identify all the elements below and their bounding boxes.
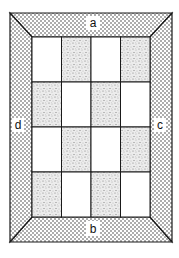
grid-cell-shaded [121,127,151,172]
grid-cell-white [32,37,62,82]
grid-cell-white [32,127,62,172]
grid-cell-white [121,172,151,217]
grid-cell-white [62,82,92,127]
grid-cell-shaded [32,172,62,217]
label-right: c [157,118,163,132]
label-bottom: b [90,222,97,236]
checker-grid [32,37,150,217]
grid-cell-shaded [32,82,62,127]
label-top: a [90,16,97,30]
grid-cell-shaded [91,82,121,127]
label-left: d [15,118,22,132]
grid-cell-white [91,127,121,172]
grid-cell-white [121,82,151,127]
grid-cell-shaded [62,37,92,82]
grid-cell-white [91,37,121,82]
framed-grid-diagram: a b c d [0,0,179,258]
grid-cell-white [62,172,92,217]
grid-cell-shaded [121,37,151,82]
grid-cell-shaded [62,127,92,172]
grid-cell-shaded [91,172,121,217]
